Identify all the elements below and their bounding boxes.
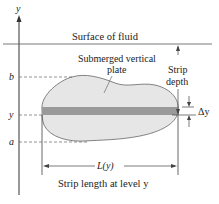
surface-label: Surface of fluid <box>72 31 139 42</box>
strip-depth-label-line2: depth <box>166 76 188 87</box>
plate-label-line2: plate <box>107 64 127 75</box>
y-axis-arrow-icon <box>17 15 22 22</box>
strip-depth-up-arrow-icon <box>176 45 180 51</box>
y-axis-label: y <box>15 3 21 14</box>
plate-label-line1: Submerged vertical <box>78 53 156 64</box>
length-label: L(y) <box>96 160 114 172</box>
length-left-arrow-icon <box>43 164 49 168</box>
submerged-plate-diagram: y Surface of fluid Submerged vertical pl… <box>0 0 219 204</box>
strip-depth-label-line1: Strip <box>168 64 187 75</box>
level-y-label: y <box>8 109 14 120</box>
level-b-label: b <box>9 71 14 82</box>
delta-y-label: Δy <box>198 106 209 117</box>
delta-y-down-arrow-icon <box>187 102 191 107</box>
level-a-label: a <box>9 136 14 147</box>
delta-y-up-arrow-icon <box>187 115 191 120</box>
horizontal-strip <box>42 107 179 115</box>
length-right-arrow-icon <box>171 164 177 168</box>
strip-length-caption: Strip length at level y <box>58 178 149 189</box>
